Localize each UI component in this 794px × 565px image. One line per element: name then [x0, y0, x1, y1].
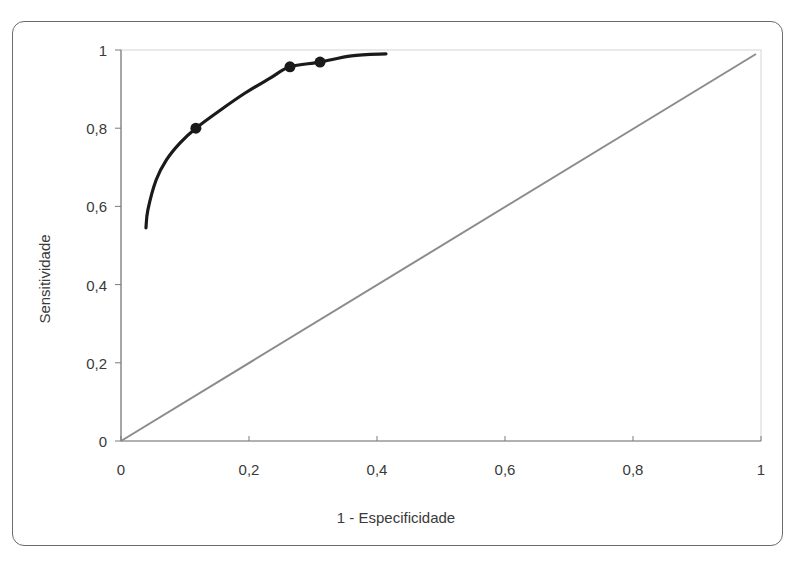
- y-axis-ticks: 00,20,40,60,81: [86, 42, 121, 450]
- y-tick-label: 0,2: [86, 355, 107, 372]
- y-tick-label: 0,6: [86, 198, 107, 215]
- roc-data-points: [190, 57, 325, 134]
- x-tick-label: 1: [757, 461, 765, 478]
- roc-curve: [146, 54, 386, 228]
- x-tick-label: 0,4: [367, 461, 388, 478]
- x-axis-title: 1 - Especificidade: [337, 509, 455, 526]
- roc-point-marker: [190, 123, 201, 134]
- y-tick-label: 0: [99, 433, 107, 450]
- x-tick-label: 0,6: [495, 461, 516, 478]
- y-tick-label: 0,8: [86, 120, 107, 137]
- x-tick-label: 0,8: [623, 461, 644, 478]
- roc-point-marker: [315, 57, 326, 68]
- x-tick-label: 0: [117, 461, 125, 478]
- roc-chart: 00,20,40,60,81 00,20,40,60,81 1 - Especi…: [0, 0, 794, 565]
- y-axis-title: Sensitividade: [36, 234, 53, 323]
- roc-point-marker: [284, 61, 295, 72]
- y-tick-label: 1: [99, 42, 107, 59]
- x-tick-label: 0,2: [239, 461, 260, 478]
- x-axis-ticks: 00,20,40,60,81: [117, 436, 765, 478]
- y-tick-label: 0,4: [86, 277, 107, 294]
